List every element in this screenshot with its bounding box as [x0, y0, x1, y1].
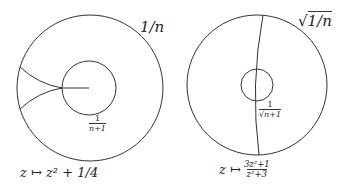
- right-map-label: z ↦ 3z²+1 z²+3: [219, 160, 270, 179]
- left-lower-cusp-curve: [20, 88, 62, 109]
- right-inner-radius-label: 1 √n+1: [259, 101, 281, 119]
- left-inner-radius-label: 1 n+1: [89, 115, 106, 133]
- left-map-label: z ↦ z² + 1/4: [20, 166, 98, 179]
- diagram-canvas: [0, 0, 343, 189]
- left-outer-circle: [17, 15, 163, 161]
- left-upper-cusp-curve: [20, 67, 62, 88]
- right-vertical-curve: [255, 15, 263, 155]
- right-outer-radius-label: √1/n: [298, 14, 332, 29]
- map-fraction: 3z²+1 z²+3: [244, 160, 270, 179]
- left-outer-radius-label: 1/n: [140, 20, 164, 35]
- right-inner-circle: [241, 69, 273, 101]
